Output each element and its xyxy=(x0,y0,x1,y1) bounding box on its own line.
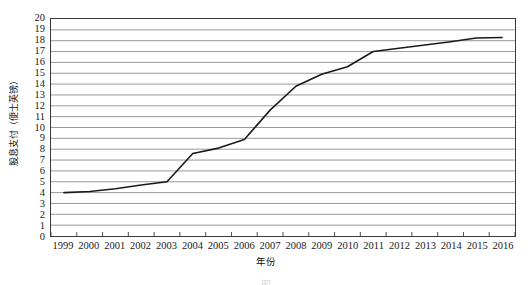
x-tick-label: 2002 xyxy=(130,240,151,251)
y-tick-label: 4 xyxy=(40,188,45,198)
y-tick-label: 14 xyxy=(35,79,46,89)
y-tick-label: 16 xyxy=(35,57,46,67)
figure-caption: 图 xyxy=(0,277,532,285)
x-tick-label: 2003 xyxy=(156,240,177,251)
x-tick-label: 2016 xyxy=(493,240,514,251)
x-tick-label: 2013 xyxy=(415,240,436,251)
data-series-line xyxy=(64,37,502,192)
x-tick-label: 1999 xyxy=(52,240,73,251)
x-axis-tick-marks xyxy=(51,232,515,236)
y-axis-title: 股息支付（便士英镑） xyxy=(2,0,24,240)
y-tick-label: 10 xyxy=(35,123,46,133)
y-tick-label: 12 xyxy=(35,101,46,111)
x-tick-label: 2004 xyxy=(182,240,203,251)
x-axis-title: 年份 xyxy=(0,254,532,268)
y-axis-tick-labels: 20191817161514131211109876543210 xyxy=(24,8,48,236)
y-tick-label: 20 xyxy=(35,13,46,23)
y-tick-label: 9 xyxy=(40,133,45,143)
y-tick-label: 18 xyxy=(35,35,46,45)
y-tick-label: 0 xyxy=(40,232,45,242)
y-tick-label: 17 xyxy=(35,46,46,56)
x-tick-label: 2012 xyxy=(389,240,410,251)
y-tick-label: 2 xyxy=(40,210,45,220)
x-tick-label: 2010 xyxy=(337,240,358,251)
gridlines xyxy=(51,30,515,225)
plot-area xyxy=(50,18,516,237)
y-tick-label: 19 xyxy=(35,24,46,34)
x-tick-label: 2015 xyxy=(467,240,488,251)
x-tick-label: 2014 xyxy=(441,240,462,251)
y-axis-title-label: 股息支付（便士英镑） xyxy=(7,75,20,165)
x-tick-label: 2006 xyxy=(234,240,255,251)
y-tick-label: 3 xyxy=(40,199,45,209)
y-tick-label: 8 xyxy=(40,144,45,154)
x-tick-label: 2007 xyxy=(260,240,281,251)
x-tick-label: 2011 xyxy=(363,240,384,251)
y-tick-label: 15 xyxy=(35,68,46,78)
y-tick-label: 5 xyxy=(40,177,45,187)
dividend-payment-line-chart: 股息支付（便士英镑） 20191817161514131211109876543… xyxy=(0,0,532,285)
y-tick-label: 13 xyxy=(35,90,46,100)
x-tick-label: 2009 xyxy=(311,240,332,251)
plot-svg xyxy=(51,19,515,236)
x-axis-tick-labels: 1999200020012002200320042005200620072008… xyxy=(50,240,516,254)
y-tick-label: 7 xyxy=(40,155,45,165)
x-tick-label: 2005 xyxy=(208,240,229,251)
y-tick-label: 1 xyxy=(40,221,45,231)
x-tick-label: 2000 xyxy=(78,240,99,251)
x-tick-label: 2001 xyxy=(104,240,125,251)
y-tick-label: 6 xyxy=(40,166,45,176)
y-tick-label: 11 xyxy=(35,112,45,122)
x-tick-label: 2008 xyxy=(285,240,306,251)
